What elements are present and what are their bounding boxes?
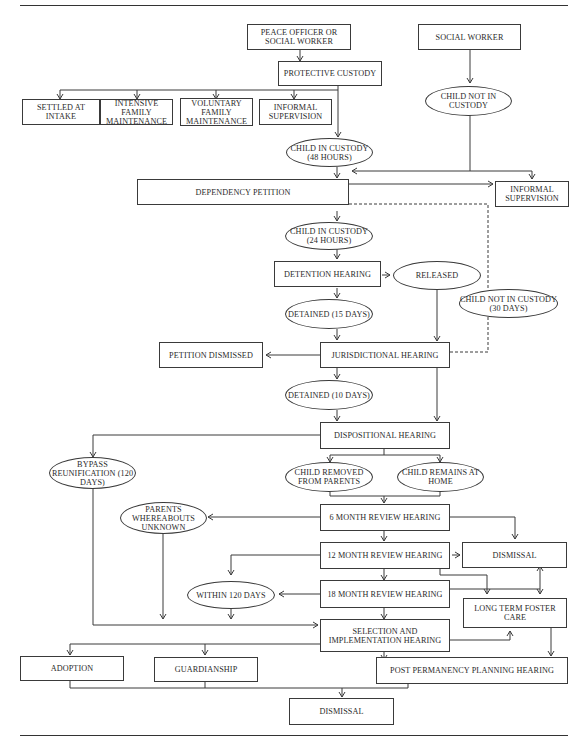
dependency-petition-box: DEPENDENCY PETITION bbox=[137, 179, 349, 205]
guardianship-box: GUARDIANSHIP bbox=[154, 657, 258, 682]
detained-15-oval: DETAINED (15 DAYS) bbox=[285, 299, 373, 329]
petition-dismissed-box: PETITION DISMISSED bbox=[159, 342, 263, 368]
detained-10-oval: DETAINED (10 DAYS) bbox=[285, 380, 373, 410]
jurisdictional-hearing-box: JURISDICTIONAL HEARING bbox=[320, 342, 450, 368]
child-in-custody-24-oval: CHILD IN CUSTODY (24 HOURS) bbox=[285, 222, 373, 250]
protective-custody-box: PROTECTIVE CUSTODY bbox=[278, 61, 382, 86]
child-not-in-custody-30-oval: CHILD NOT IN CUSTODY (30 DAYS) bbox=[459, 289, 558, 318]
detention-hearing-box: DETENTION HEARING bbox=[274, 261, 381, 287]
child-remains-oval: CHILD REMAINS AT HOME bbox=[397, 462, 484, 492]
within-120-days-oval: WITHIN 120 DAYS bbox=[187, 581, 275, 609]
adoption-box: ADOPTION bbox=[20, 656, 124, 681]
review-12-month-box: 12 MONTH REVIEW HEARING bbox=[320, 542, 450, 569]
informal-supervision-box-1: INFORMAL SUPERVISION bbox=[259, 99, 332, 125]
voluntary-family-maintenance-box: VOLUNTARY FAMILY MAINTENANCE bbox=[180, 98, 253, 126]
child-not-in-custody-oval: CHILD NOT IN CUSTODY bbox=[425, 86, 512, 116]
child-in-custody-48-oval: CHILD IN CUSTODY (48 HOURS) bbox=[286, 138, 373, 167]
review-6-month-box: 6 MONTH REVIEW HEARING bbox=[320, 504, 450, 531]
child-removed-oval: CHILD REMOVED FROM PARENTS bbox=[285, 462, 373, 492]
informal-supervision-box-2: INFORMAL SUPERVISION bbox=[495, 181, 569, 207]
peace-officer-box: PEACE OFFICER OR SOCIAL WORKER bbox=[247, 24, 351, 50]
social-worker-box: SOCIAL WORKER bbox=[418, 24, 521, 50]
post-permanency-planning-hearing-box: POST PERMANENCY PLANNING HEARING bbox=[376, 657, 568, 684]
settled-at-intake-box: SETTLED AT INTAKE bbox=[22, 99, 100, 125]
bypass-reunification-oval: BYPASS REUNIFICATION (120 DAYS) bbox=[49, 457, 136, 489]
dismissal-box-2: DISMISSAL bbox=[289, 698, 394, 725]
review-18-month-box: 18 MONTH REVIEW HEARING bbox=[320, 580, 450, 608]
dismissal-box-1: DISMISSAL bbox=[462, 542, 567, 568]
intensive-family-maintenance-box: INTENSIVE FAMILY MAINTENANCE bbox=[100, 99, 173, 125]
parents-whereabouts-oval: PARENTS WHEREABOUTS UNKNOWN bbox=[120, 502, 207, 534]
released-oval: RELEASED bbox=[393, 261, 481, 290]
selection-implementation-hearing-box: SELECTION AND IMPLEMENTATION HEARING bbox=[320, 619, 450, 652]
long-term-foster-care-box: LONG TERM FOSTER CARE bbox=[463, 598, 567, 628]
dispositional-hearing-box: DISPOSITIONAL HEARING bbox=[320, 422, 450, 449]
